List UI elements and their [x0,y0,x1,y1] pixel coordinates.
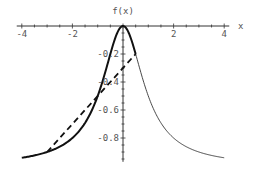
y-tick-label: -0.2 [97,49,119,59]
x-tick-label: 4 [221,29,226,39]
labels: -4-224-0.2-0.4-0.6-0.8xf(x) [16,6,244,143]
chart: -4-224-0.2-0.4-0.6-0.8xf(x) [0,0,258,172]
x-tick-label: -2 [67,29,78,39]
series-thin-line [136,54,225,158]
x-axis-label: x [238,21,244,31]
y-tick-label: -0.4 [97,77,119,87]
y-axis-label: f(x) [112,6,134,16]
axes [17,24,230,162]
x-tick-label: 2 [171,29,176,39]
y-tick-label: -0.6 [97,105,119,115]
y-tick-label: -0.8 [97,133,119,143]
x-tick-label: -4 [16,29,27,39]
